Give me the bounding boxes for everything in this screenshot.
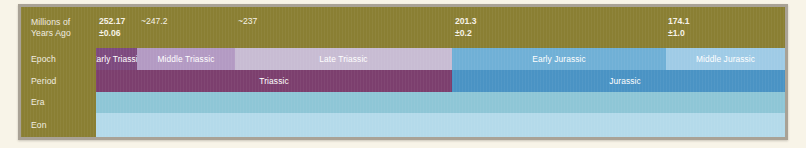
geologic-timescale-figure: Millions of Years Ago 252.17 ±0.06~247.2… xyxy=(18,4,788,140)
segment-label: Jurassic xyxy=(609,76,641,86)
segment-middle-triassic[interactable]: Middle Triassic xyxy=(137,48,235,70)
row-label-epoch: Epoch xyxy=(31,48,56,70)
eon-segment-track xyxy=(96,113,785,137)
segment-middle-jurassic[interactable]: Middle Jurassic xyxy=(666,48,785,70)
row-label-eon: Eon xyxy=(31,113,47,137)
segment-label: Early Triassic xyxy=(96,54,137,64)
segment-early-jurassic[interactable]: Early Jurassic xyxy=(452,48,666,70)
period-segment-track: TriassicJurassic xyxy=(96,70,785,92)
segment-eon-band[interactable] xyxy=(96,113,785,137)
band-row-eon: Eon xyxy=(21,113,785,137)
axis-tick-252.17: 252.17 ±0.06 xyxy=(99,16,125,39)
segment-label: Triassic xyxy=(259,76,288,86)
axis-tick-track: 252.17 ±0.06~247.2~237201.3 ±0.2174.1 ±1… xyxy=(96,7,785,48)
timescale-canvas: Millions of Years Ago 252.17 ±0.06~247.2… xyxy=(21,7,785,137)
segment-late-triassic[interactable]: Late Triassic xyxy=(235,48,452,70)
segment-label: Early Jurassic xyxy=(532,54,586,64)
era-segment-track xyxy=(96,92,785,113)
band-row-era: Era xyxy=(21,92,785,113)
band-row-epoch: Epoch Early TriassicMiddle TriassicLate … xyxy=(21,48,785,70)
axis-row-millions-of-years-ago: Millions of Years Ago 252.17 ±0.06~247.2… xyxy=(21,7,785,48)
axis-tick-174.1: 174.1 ±1.0 xyxy=(668,16,690,39)
segment-jurassic[interactable]: Jurassic xyxy=(452,70,785,92)
row-label-period: Period xyxy=(31,70,56,92)
row-label-era: Era xyxy=(31,92,45,113)
axis-tick-201.3: 201.3 ±0.2 xyxy=(455,16,477,39)
band-row-period: Period TriassicJurassic xyxy=(21,70,785,92)
axis-tick-247.2: ~247.2 xyxy=(141,16,168,28)
axis-tick-237: ~237 xyxy=(238,16,257,28)
segment-label: Late Triassic xyxy=(319,54,367,64)
row-label-millions-of-years-ago: Millions of Years Ago xyxy=(31,7,71,48)
segment-early-triassic[interactable]: Early Triassic xyxy=(96,48,137,70)
segment-triassic[interactable]: Triassic xyxy=(96,70,452,92)
segment-label: Middle Jurassic xyxy=(696,54,755,64)
segment-label: Middle Triassic xyxy=(158,54,215,64)
epoch-segment-track: Early TriassicMiddle TriassicLate Triass… xyxy=(96,48,785,70)
segment-era-band[interactable] xyxy=(96,92,785,113)
